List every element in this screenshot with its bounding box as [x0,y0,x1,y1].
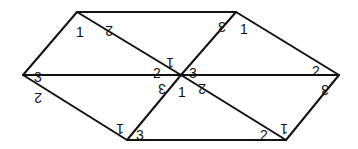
angle-label-A-2: 2 [105,23,113,39]
angle-label-C-2: 2 [34,90,42,106]
angle-label-F-1: 1 [280,121,288,137]
triangle-tiling-diagram: 123132213312231321 [0,0,358,149]
angle-label-D-2: 2 [312,63,320,79]
angle-label-O-2: 2 [198,81,206,97]
angle-label-A-1: 1 [76,24,84,40]
angle-label-B-1: 1 [240,21,248,37]
edge-C-E [23,75,127,140]
angle-label-C-3: 3 [34,69,42,85]
edges [23,12,339,140]
angle-label-O-1: 1 [166,55,174,71]
edge-O-F [181,75,286,140]
edge-A-O [77,12,181,75]
angle-label-E-1: 1 [116,121,124,137]
angle-label-O-1: 1 [178,84,186,100]
angle-label-F-2: 2 [260,127,268,143]
angle-label-D-3: 3 [321,82,329,98]
angle-labels: 123132213312231321 [34,19,329,142]
angle-label-O-2: 2 [153,65,161,81]
edge-B-D [236,12,339,75]
angle-label-B-3: 3 [218,19,226,35]
angle-label-E-3: 3 [136,127,144,143]
edge-D-F [286,75,339,140]
edge-O-E [127,75,181,140]
angle-label-O-3: 3 [189,65,197,81]
angle-label-O-3: 3 [158,81,166,97]
edge-A-C [23,12,77,75]
